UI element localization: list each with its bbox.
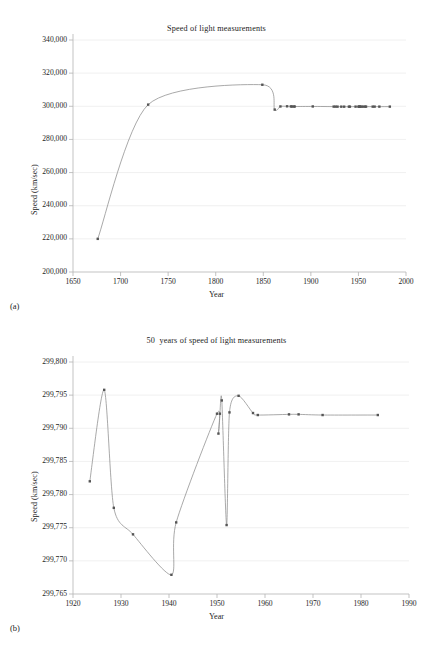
panel-a-label: (a) xyxy=(10,301,19,311)
chart-a-ytick-label: 280,000 xyxy=(42,134,67,143)
chart-a-ytick-label: 260,000 xyxy=(42,167,67,176)
chart-a-ytick-label: 340,000 xyxy=(42,35,67,44)
chart-b-ytick-label: 299,770 xyxy=(42,555,67,564)
chart-b-xtick-label: 1940 xyxy=(144,599,194,608)
chart-b-ytick-label: 299,790 xyxy=(42,423,67,432)
chart-a-ytick-label: 200,000 xyxy=(42,267,67,276)
chart-a-xaxis-title: Year xyxy=(0,290,433,299)
figure-panel-b: 50 years of speed of light measurements … xyxy=(0,326,433,652)
chart-a-ytick-label: 240,000 xyxy=(42,200,67,209)
chart-b-yaxis-title: Speed (km/sec) xyxy=(30,471,39,522)
chart-b-xtick-label: 1970 xyxy=(288,599,338,608)
chart-b-ytick-label: 299,780 xyxy=(42,489,67,498)
chart-a-xtick-label: 1900 xyxy=(286,277,336,286)
chart-a-xtick-label: 1950 xyxy=(333,277,383,286)
chart-b-ytick-label: 299,765 xyxy=(42,589,67,598)
chart-b-xtick-label: 1930 xyxy=(96,599,146,608)
figure-panel-a: Speed of light measurements Year Speed (… xyxy=(0,0,433,326)
chart-a-ytick-label: 220,000 xyxy=(42,233,67,242)
chart-b-ytick-label: 299,795 xyxy=(42,390,67,399)
chart-b-ytick-label: 299,775 xyxy=(42,522,67,531)
chart-b-xaxis-title: Year xyxy=(0,612,433,621)
chart-b-xtick-label: 1920 xyxy=(48,599,98,608)
chart-a-xtick-label: 1850 xyxy=(238,277,288,286)
chart-a-xtick-label: 2000 xyxy=(381,277,431,286)
chart-a-yaxis-title: Speed (km/sec) xyxy=(30,164,39,215)
chart-b-xtick-label: 1990 xyxy=(384,599,433,608)
chart-a-xtick-label: 1700 xyxy=(96,277,146,286)
chart-a-xtick-label: 1650 xyxy=(48,277,98,286)
chart-a-xtick-label: 1800 xyxy=(191,277,241,286)
chart-a-ytick-label: 320,000 xyxy=(42,68,67,77)
chart-a-ytick-label: 300,000 xyxy=(42,101,67,110)
panel-b-label: (b) xyxy=(10,623,20,633)
chart-a-xtick-label: 1750 xyxy=(143,277,193,286)
chart-b-ytick-label: 299,800 xyxy=(42,357,67,366)
chart-b-xtick-label: 1950 xyxy=(192,599,242,608)
chart-b-xtick-label: 1960 xyxy=(240,599,290,608)
chart-b-xtick-label: 1980 xyxy=(336,599,386,608)
chart-b-ytick-label: 299,785 xyxy=(42,456,67,465)
